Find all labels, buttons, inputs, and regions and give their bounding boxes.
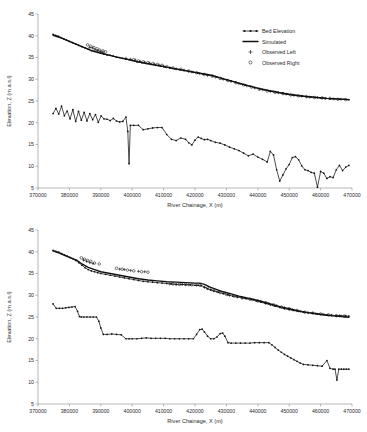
data-point-marker (243, 152, 245, 154)
simulated-line (53, 251, 349, 318)
data-point-marker (213, 338, 215, 340)
observed-left-marker (340, 98, 343, 101)
x-axis-title: River Chainage, X (m) (167, 418, 222, 424)
data-point-marker (313, 172, 315, 174)
data-point-marker (161, 282, 163, 284)
observed-right-marker (93, 262, 96, 265)
data-point-marker (100, 273, 102, 275)
data-point-marker (335, 169, 337, 171)
y-tick-label: 5 (31, 401, 34, 407)
data-point-marker (240, 342, 242, 344)
data-point-marker (75, 121, 77, 123)
x-tick-label: 450000 (281, 408, 298, 414)
legend-label: Observed Right (262, 60, 300, 66)
data-point-marker (91, 270, 93, 272)
data-point-marker (227, 342, 229, 344)
data-point-marker (97, 272, 99, 274)
legend-bed-dot (243, 30, 245, 32)
data-point-marker (97, 121, 99, 123)
x-axis-title: River Chainage, X (m) (167, 202, 222, 208)
data-point-marker (254, 342, 256, 344)
data-point-marker (310, 171, 312, 173)
observed-left-marker (299, 310, 302, 313)
data-point-marker (133, 125, 135, 127)
observed-left-marker (187, 283, 190, 286)
observed-left-marker (181, 283, 184, 286)
data-point-marker (293, 359, 295, 361)
observed-left-marker (168, 66, 171, 69)
data-point-marker (86, 120, 88, 122)
data-point-marker (282, 174, 284, 176)
x-tick-label: 430000 (218, 192, 235, 198)
data-point-marker (295, 156, 297, 158)
data-point-marker (345, 166, 347, 168)
data-point-marker (302, 364, 304, 366)
y-tick-label: 35 (28, 270, 34, 276)
observed-right-marker (104, 51, 107, 54)
data-point-marker (259, 342, 261, 344)
data-point-marker (200, 138, 202, 140)
x-tick-label: 420000 (186, 192, 203, 198)
data-point-marker (111, 333, 113, 335)
data-point-marker (147, 281, 149, 283)
water-surface-line (53, 304, 349, 380)
data-point-marker (69, 118, 71, 120)
data-point-marker (188, 338, 190, 340)
data-point-marker (78, 111, 80, 113)
data-point-marker (285, 168, 287, 170)
data-point-marker (156, 127, 158, 129)
y-tick-label: 20 (28, 120, 34, 126)
data-point-marker (128, 278, 130, 280)
y-tick-label: 25 (28, 98, 34, 104)
data-point-marker (290, 357, 292, 359)
x-tick-label: 370000 (29, 192, 46, 198)
data-point-marker (80, 316, 82, 318)
observed-left-marker (285, 93, 288, 96)
data-point-marker (142, 280, 144, 282)
data-point-marker (332, 368, 334, 370)
x-tick-label: 380000 (61, 192, 78, 198)
x-tick-label: 410000 (155, 192, 172, 198)
data-point-marker (279, 180, 281, 182)
data-point-marker (65, 307, 67, 309)
data-point-marker (317, 186, 319, 188)
data-point-marker (339, 165, 341, 167)
data-point-marker (248, 155, 250, 157)
observed-right-marker (86, 44, 89, 47)
bed-elevation-line (53, 34, 349, 99)
data-point-marker (166, 283, 168, 285)
data-point-marker (164, 337, 166, 339)
y-axis-title: Elevation, Z (m a.s.l) (6, 75, 12, 126)
data-point-marker (219, 333, 221, 335)
observed-right-marker (121, 268, 124, 271)
data-point-marker (307, 170, 309, 172)
data-point-marker (345, 368, 347, 370)
data-point-marker (136, 338, 138, 340)
data-point-marker (145, 337, 147, 339)
axis-frame (38, 14, 352, 188)
data-point-marker (224, 144, 226, 146)
data-point-marker (329, 367, 331, 369)
observed-left-marker (129, 269, 132, 272)
data-point-marker (336, 379, 338, 381)
data-point-marker (87, 269, 89, 271)
data-point-marker (68, 307, 70, 309)
x-tick-label: 370000 (29, 408, 46, 414)
data-point-marker (281, 351, 283, 353)
data-point-marker (207, 335, 209, 337)
data-point-marker (343, 368, 345, 370)
data-point-marker (98, 321, 100, 323)
data-point-marker (219, 142, 221, 144)
data-point-marker (138, 280, 140, 282)
data-point-marker (262, 158, 264, 160)
data-point-marker (124, 277, 126, 279)
data-point-marker (215, 141, 217, 143)
data-point-marker (210, 140, 212, 142)
data-point-marker (299, 362, 301, 364)
data-point-marker (340, 368, 342, 370)
data-point-marker (125, 338, 127, 340)
observed-right-marker (93, 46, 96, 49)
observed-right-marker (98, 263, 101, 266)
data-point-marker (61, 105, 63, 107)
data-point-marker (274, 347, 276, 349)
